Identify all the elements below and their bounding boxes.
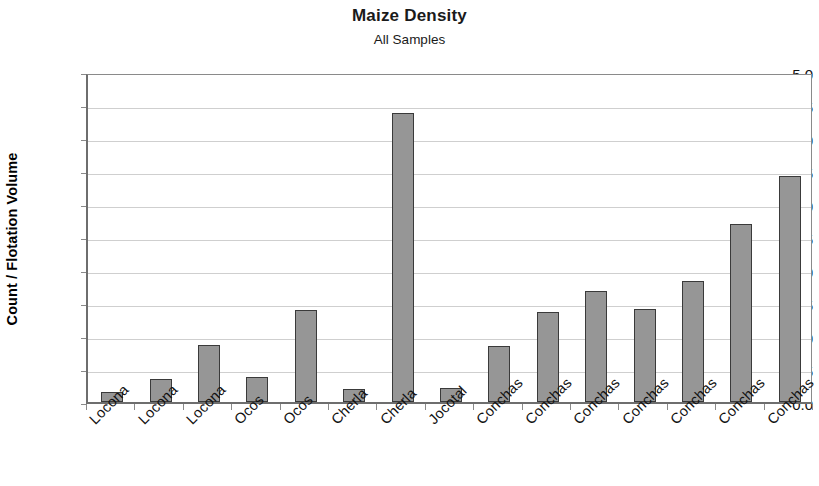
x-axis-tick-mark [134, 404, 135, 410]
x-axis-tick-mark [618, 404, 619, 410]
x-axis-tick-mark [473, 404, 474, 410]
gridline [88, 240, 811, 241]
x-axis-tick-mark [183, 404, 184, 410]
x-axis-tick-mark [425, 404, 426, 410]
x-axis-tick-mark [86, 404, 87, 410]
x-axis-tick-mark [280, 404, 281, 410]
x-axis-tick-mark [812, 404, 813, 410]
x-axis-tick-mark [522, 404, 523, 410]
bar [392, 113, 414, 402]
plot-area [86, 74, 812, 404]
gridline [88, 207, 811, 208]
y-axis-title: Count / Flotation Volume [0, 74, 24, 404]
bar [295, 310, 317, 402]
x-axis-tick-mark [764, 404, 765, 410]
gridline [88, 174, 811, 175]
gridline [88, 141, 811, 142]
gridline [88, 108, 811, 109]
chart-subtitle: All Samples [0, 32, 819, 47]
x-axis-tick-mark [231, 404, 232, 410]
x-axis-tick-mark [376, 404, 377, 410]
x-axis-tick-mark [570, 404, 571, 410]
gridline [88, 273, 811, 274]
x-axis-tick-mark [715, 404, 716, 410]
bar [779, 176, 801, 402]
chart-title: Maize Density [0, 6, 819, 26]
bar [730, 224, 752, 402]
x-axis-tick-mark [328, 404, 329, 410]
x-axis-tick-mark [667, 404, 668, 410]
y-axis-title-label: Count / Flotation Volume [4, 153, 20, 326]
maize-density-chart: Maize Density All Samples Count / Flotat… [0, 0, 819, 486]
